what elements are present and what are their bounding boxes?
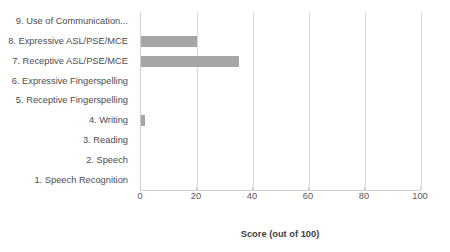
category-label-5: 5. Receptive Fingerspelling — [0, 95, 134, 106]
category-label-2: 2. Speech — [0, 155, 134, 166]
plot-area — [140, 12, 421, 191]
tick-label-0: 0 — [137, 191, 142, 201]
bar-row — [141, 52, 421, 72]
bar-row — [141, 111, 421, 131]
gridline-100 — [421, 12, 422, 190]
tick-label-20: 20 — [191, 191, 201, 201]
category-label-6: 6. Expressive Fingerspelling — [0, 76, 134, 87]
bar-row — [141, 12, 421, 32]
x-axis-title: Score (out of 100) — [140, 229, 420, 239]
bar-row — [141, 131, 421, 151]
bar-row — [141, 91, 421, 111]
bar-row — [141, 32, 421, 52]
bar-row — [141, 170, 421, 190]
tick-label-60: 60 — [303, 191, 313, 201]
bar — [141, 36, 197, 47]
bar — [141, 115, 145, 126]
value-axis-ticks: 020406080100 — [140, 191, 420, 205]
bar-row — [141, 150, 421, 170]
category-label-3: 3. Reading — [0, 135, 134, 146]
category-label-9: 9. Use of Communication... — [0, 16, 134, 27]
tick-label-100: 100 — [412, 191, 428, 201]
category-label-4: 4. Writing — [0, 115, 134, 126]
category-label-8: 8. Expressive ASL/PSE/MCE — [0, 36, 134, 47]
bar-chart: 9. Use of Communication... 8. Expressive… — [0, 0, 450, 252]
tick-label-40: 40 — [247, 191, 257, 201]
tick-label-80: 80 — [359, 191, 369, 201]
bar — [141, 56, 239, 67]
bar-row — [141, 71, 421, 91]
category-label-7: 7. Receptive ASL/PSE/MCE — [0, 56, 134, 67]
category-axis-labels: 9. Use of Communication... 8. Expressive… — [0, 12, 134, 190]
bar-series — [141, 12, 421, 190]
category-label-1: 1. Speech Recognition — [0, 175, 134, 186]
